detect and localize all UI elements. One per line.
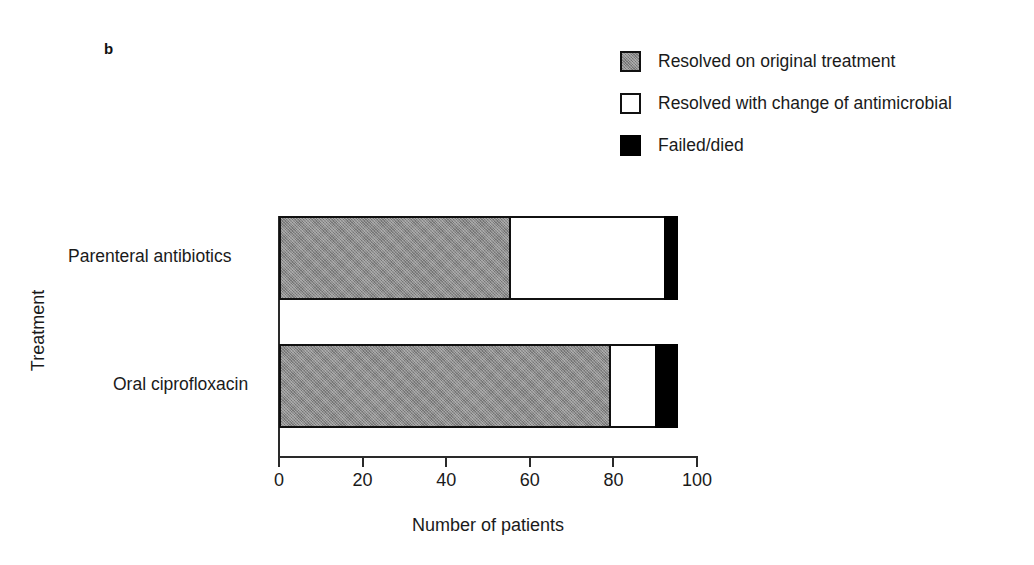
x-axis-tick-label: 40 (436, 470, 456, 491)
bar-oral-ciprofloxacin (279, 344, 676, 428)
bar-segment-resolved-original (279, 216, 511, 300)
x-axis-line (278, 456, 698, 458)
legend-item-resolved-change: Resolved with change of antimicrobial (620, 82, 1030, 124)
x-axis-tick (445, 456, 447, 467)
bar-parenteral-antibiotics (279, 216, 676, 300)
bar-segment-failed-died (664, 216, 679, 300)
bar-segment-resolved-change (609, 344, 657, 428)
legend: Resolved on original treatment Resolved … (620, 40, 1030, 166)
legend-label-failed-died: Failed/died (658, 135, 744, 156)
x-axis-tick (612, 456, 614, 467)
x-axis-tick-label: 0 (274, 470, 284, 491)
legend-swatch-white-icon (620, 93, 641, 114)
bar-segment-failed-died (655, 344, 678, 428)
legend-label-resolved-change: Resolved with change of antimicrobial (658, 93, 952, 114)
x-axis-tick-label: 80 (603, 470, 623, 491)
panel-label: b (104, 40, 113, 57)
legend-label-resolved-original: Resolved on original treatment (658, 51, 895, 72)
x-axis-tick-label: 100 (682, 470, 712, 491)
bar-segment-resolved-change (509, 216, 666, 300)
plot-area: 020406080100 (279, 216, 697, 456)
x-axis-tick (529, 456, 531, 467)
bar-segment-resolved-original (279, 344, 611, 428)
x-axis-tick (278, 456, 280, 467)
x-axis-title: Number of patients (279, 515, 697, 536)
x-axis-tick (696, 456, 698, 467)
y-axis-title: Treatment (28, 271, 49, 391)
x-axis-tick-label: 60 (520, 470, 540, 491)
legend-swatch-black-icon (620, 135, 641, 156)
legend-swatch-gray-icon (620, 51, 641, 72)
x-axis-tick (362, 456, 364, 467)
legend-item-resolved-original: Resolved on original treatment (620, 40, 1030, 82)
x-axis-tick-label: 20 (353, 470, 373, 491)
legend-item-failed-died: Failed/died (620, 124, 1030, 166)
